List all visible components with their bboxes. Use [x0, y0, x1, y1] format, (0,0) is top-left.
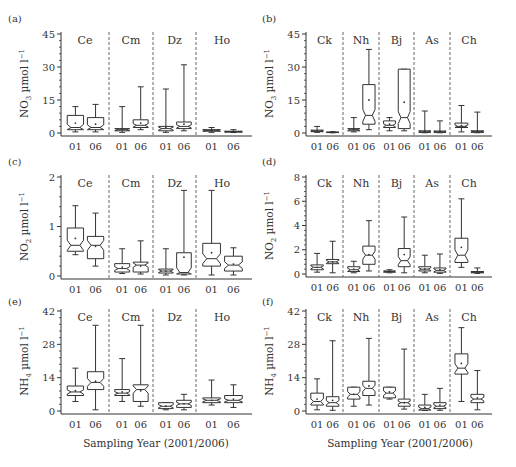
- y-axis-label: NO2 µmol l−1: [263, 191, 278, 260]
- panel-label: (c): [8, 156, 22, 167]
- site-label: As: [424, 34, 439, 47]
- mean-marker: [316, 130, 318, 132]
- mean-marker: [316, 266, 318, 268]
- mean-marker: [121, 266, 123, 268]
- site-label: Ch: [461, 34, 477, 47]
- site-label: Dz: [167, 177, 182, 190]
- site-label: Bj: [391, 34, 403, 47]
- figure: (a)0153045NO3 µmol l−1Ce0106Cm0106Dz0106…: [0, 0, 516, 467]
- x-tick-label: 06: [434, 419, 447, 430]
- x-tick-label: 06: [398, 282, 411, 293]
- x-tick-label: 01: [418, 141, 431, 152]
- y-axis-label: NO3 µmol l−1: [18, 49, 33, 118]
- mean-marker: [476, 130, 478, 132]
- x-tick-label: 06: [471, 419, 484, 430]
- y-tick-label: 8: [294, 172, 300, 183]
- site-label: Nh: [353, 34, 370, 47]
- x-tick-label: 06: [363, 419, 376, 430]
- site-label: Ce: [78, 177, 93, 190]
- site-label: Ce: [78, 311, 93, 324]
- mean-marker: [165, 405, 167, 407]
- y-tick-label: 0: [294, 269, 300, 280]
- x-axis-title: Sampling Year (2001/2006): [327, 437, 473, 449]
- x-tick-label: 01: [311, 282, 324, 293]
- y-tick-label: 14: [287, 372, 300, 383]
- mean-marker: [75, 122, 77, 124]
- x-tick-label: 06: [227, 419, 240, 430]
- x-tick-label: 06: [178, 419, 191, 430]
- box-Ho-06: [225, 248, 243, 275]
- site-label: Dz: [167, 34, 182, 47]
- x-tick-label: 06: [363, 282, 376, 293]
- panel-b: (b)0153045NO3 µmol l−1Ck0106Nh0106Bj0106…: [262, 13, 492, 152]
- x-tick-label: 06: [134, 141, 147, 152]
- y-tick-label: 0: [49, 406, 55, 417]
- box-As-01: [419, 255, 431, 273]
- mean-marker: [95, 123, 97, 125]
- mean-marker: [439, 404, 441, 406]
- box-Ce-06: [87, 213, 103, 266]
- x-tick-label: 06: [363, 141, 376, 152]
- box-Ch-06: [471, 112, 484, 133]
- box-Nh-01: [348, 387, 360, 406]
- x-tick-label: 06: [89, 284, 102, 295]
- box-Cm-06: [133, 325, 148, 406]
- x-tick-label: 01: [205, 419, 218, 430]
- mean-marker: [233, 398, 235, 400]
- y-axis-label: NH4 µmol l−1: [18, 326, 33, 396]
- mean-marker: [140, 390, 142, 392]
- box-Ho-01: [203, 128, 221, 133]
- site-label: Cm: [122, 34, 141, 47]
- y-tick-label: 45: [287, 29, 300, 40]
- x-tick-label: 01: [116, 419, 129, 430]
- mean-marker: [353, 393, 355, 395]
- site-label: Ho: [214, 34, 231, 47]
- mean-marker: [332, 131, 334, 133]
- panel-label: (b): [262, 13, 276, 24]
- x-tick-label: 06: [89, 419, 102, 430]
- site-label: Ck: [317, 34, 332, 47]
- mean-marker: [316, 398, 318, 400]
- panel-d: (d)02468NO2 µmol l−1Ck0106Nh0106Bj0106As…: [262, 156, 492, 293]
- box-Nh-01: [348, 261, 360, 273]
- x-tick-label: 01: [205, 284, 218, 295]
- site-label: Ho: [214, 177, 231, 190]
- box-Bj-01: [384, 387, 396, 399]
- mean-marker: [461, 362, 463, 364]
- x-tick-label: 06: [434, 282, 447, 293]
- box-As-06: [434, 121, 446, 133]
- box-Ck-06: [326, 241, 339, 273]
- mean-marker: [211, 129, 213, 131]
- x-tick-label: 01: [383, 419, 396, 430]
- x-tick-label: 06: [326, 282, 339, 293]
- mean-marker: [353, 268, 355, 270]
- site-label: Bj: [391, 177, 403, 190]
- y-axis-label: NO3 µmol l−1: [263, 49, 278, 118]
- mean-marker: [403, 254, 405, 256]
- mean-marker: [461, 246, 463, 248]
- x-tick-label: 06: [134, 284, 147, 295]
- y-tick-label: 2: [294, 244, 300, 255]
- panel-c: (c)012NO2 µmol l−1Ce0106Cm0106Dz0106Ho01…: [8, 156, 252, 295]
- y-tick-label: 28: [287, 339, 300, 350]
- box-Dz-01: [159, 89, 174, 132]
- y-tick-label: 30: [287, 62, 300, 73]
- mean-marker: [476, 271, 478, 273]
- y-tick-label: 30: [42, 62, 55, 73]
- box-Cm-06: [133, 241, 148, 274]
- panel-label: (f): [262, 296, 274, 307]
- mean-marker: [476, 397, 478, 399]
- site-label: Ch: [461, 177, 477, 190]
- y-tick-label: 0: [294, 406, 300, 417]
- site-label: Ch: [461, 311, 477, 324]
- site-label: Ho: [214, 311, 231, 324]
- box-Ch-01: [455, 199, 468, 268]
- x-tick-label: 06: [227, 284, 240, 295]
- x-tick-label: 01: [311, 141, 324, 152]
- box-Ho-01: [203, 190, 221, 275]
- mean-marker: [183, 403, 185, 405]
- y-axis-label: NH4 µmol l−1: [263, 326, 278, 396]
- x-tick-label: 06: [178, 141, 191, 152]
- box-Ce-06: [87, 325, 103, 410]
- x-tick-label: 01: [455, 419, 468, 430]
